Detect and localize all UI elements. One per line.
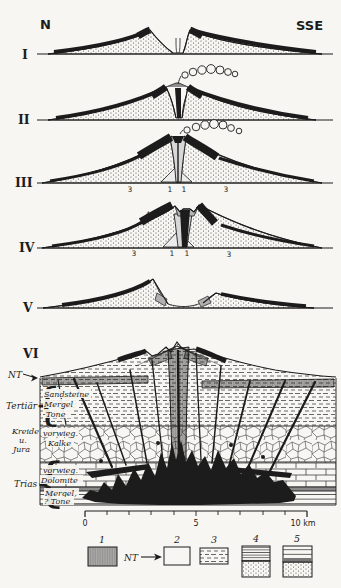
stage-5-section: V	[22, 279, 333, 315]
smoke-plume-icon	[180, 120, 242, 134]
unit-label: 1	[168, 185, 173, 194]
stage-3-section: 4 4 3 1 1 3 III	[15, 120, 333, 194]
era-label-u: u.	[19, 436, 27, 445]
scale-bar: 0 5 10 km	[82, 511, 315, 528]
unit-label-vorwieg-dolomite-1: vorwieg.	[43, 466, 78, 475]
legend-num-4: 4	[252, 533, 259, 544]
unit-label-tone: Tone	[46, 410, 66, 419]
era-label-jura: Jura	[11, 445, 30, 454]
unit-label-dolomite: Dolomite	[40, 476, 78, 485]
stage-numeral-3: III	[15, 175, 33, 190]
legend-box-2	[164, 547, 190, 565]
unit-label: 1	[182, 185, 187, 194]
scale-middle-label: 5	[193, 519, 198, 528]
unit-label: 3	[227, 250, 232, 259]
scale-start-label: 0	[82, 519, 87, 528]
volcano-evolution-figure: N SSE I II	[0, 0, 341, 588]
unit-label-kalke: Kalke	[47, 439, 71, 448]
figure-page: N SSE I II	[0, 0, 341, 588]
legend-arrow-icon	[141, 554, 162, 561]
legend-box-5	[283, 546, 312, 577]
stage-6-section: NT Tertiär { Kreide u. Jura Trias { Sand…	[6, 342, 336, 512]
legend-num-1: 1	[99, 534, 105, 545]
scale-end-label: 10 km	[290, 519, 315, 528]
unit-label: 3	[132, 249, 137, 258]
legend-num-5: 5	[294, 533, 300, 544]
nt-layer-label: NT	[7, 370, 23, 380]
legend-num-2: 2	[173, 534, 180, 545]
compass-label-n: N	[40, 17, 51, 32]
unit-label: 4	[206, 147, 211, 156]
legend-box-3	[200, 548, 228, 564]
unit-label-tone2: ? Tone	[44, 497, 71, 506]
unit-label-vorwieg-kalke-1: vorwieg.	[43, 429, 78, 438]
stage-numeral-1: I	[22, 47, 28, 62]
stage-numeral-2: II	[18, 112, 30, 127]
compass-label-sse: SSE	[296, 18, 323, 33]
unit-label-sandsteine: Sandsteine	[44, 390, 89, 399]
unit-label: 3	[128, 185, 133, 194]
smoke-plume-icon	[178, 65, 238, 84]
era-label-kreide: Kreide	[11, 427, 39, 436]
stage-numeral-4: IV	[19, 240, 35, 255]
stage-numeral-6: VI	[22, 346, 39, 361]
unit-label: 4	[209, 213, 214, 222]
unit-label: 1	[170, 249, 175, 258]
unit-label: 3	[224, 185, 229, 194]
legend-num-3: 3	[211, 534, 217, 545]
pattern-legend: 1 NT 2 3 4 5	[88, 533, 312, 577]
stage-numeral-5: V	[22, 300, 33, 315]
legend-nt-label: NT	[123, 553, 139, 563]
unit-label: 4	[146, 210, 151, 219]
unit-label: 4	[144, 146, 149, 155]
legend-box-1	[88, 547, 117, 566]
legend-box-4	[242, 546, 270, 577]
unit-label-mergel: Mergel	[43, 400, 74, 409]
stage-4-section: 4 4 3 1 1 3 IV	[19, 205, 333, 259]
stage-2-section: II	[18, 65, 333, 127]
unit-label: 1	[185, 249, 190, 258]
stage-1-section: I	[22, 30, 333, 62]
